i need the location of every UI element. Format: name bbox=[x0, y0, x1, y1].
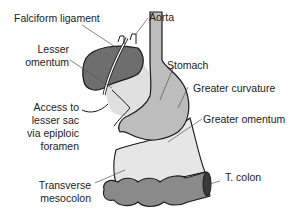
label-stomach: Stomach bbox=[167, 59, 208, 72]
label-t-colon: T. colon bbox=[225, 171, 261, 184]
colon-end-shape bbox=[203, 172, 211, 196]
label-transverse-mesocolon-line2: mesocolon bbox=[40, 192, 91, 205]
anatomy-diagram: Falciform ligament Aorta Lesser omentum … bbox=[0, 0, 291, 218]
label-access-line2: lesser sac bbox=[32, 114, 79, 127]
label-access-line4: foramen bbox=[40, 140, 79, 153]
label-access-line3: via epiploic bbox=[27, 127, 79, 140]
label-greater-curvature: Greater curvature bbox=[193, 82, 275, 95]
label-aorta: Aorta bbox=[149, 11, 174, 24]
epiploic-arrow bbox=[82, 104, 108, 112]
label-greater-omentum: Greater omentum bbox=[203, 113, 285, 126]
label-access-line1: Access to bbox=[33, 101, 79, 114]
label-transverse-mesocolon-line1: Transverse bbox=[39, 179, 91, 192]
label-lesser-omentum-line2: omentum bbox=[25, 56, 69, 69]
label-lesser-omentum-line1: Lesser bbox=[37, 43, 69, 56]
label-falciform-ligament: Falciform ligament bbox=[14, 12, 100, 25]
